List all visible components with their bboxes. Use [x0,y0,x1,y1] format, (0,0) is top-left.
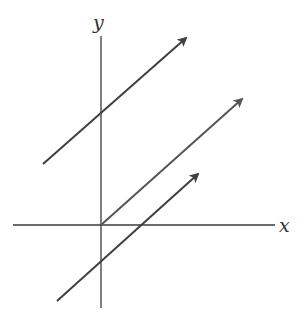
upper-vector-arrow [43,38,186,164]
x-axis-label: x [279,214,290,236]
lower-vector-arrow [57,174,198,301]
y-axis-label: y [92,11,104,33]
diagram-canvas: y x [0,0,305,325]
coordinate-plane: y x [0,0,305,325]
middle-vector-arrow [101,99,242,225]
